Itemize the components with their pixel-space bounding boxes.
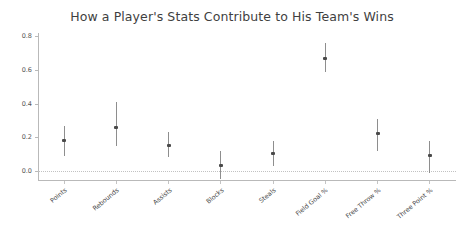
x-tick-mark xyxy=(429,181,430,184)
chart-title: How a Player's Stats Contribute to His T… xyxy=(0,9,464,24)
x-tick-mark xyxy=(64,181,65,184)
y-tick-label: 0.6 xyxy=(8,67,32,74)
x-tick-mark xyxy=(377,181,378,184)
y-tick-mark xyxy=(35,104,38,105)
x-tick-label: Three Point % xyxy=(396,187,434,220)
y-tick-label: 0.2 xyxy=(8,134,32,141)
errorbar-point-marker xyxy=(219,164,223,167)
y-tick-mark xyxy=(35,171,38,172)
x-tick-label: Rebounds xyxy=(92,187,120,212)
y-tick-mark xyxy=(35,70,38,71)
errorbar-point-marker xyxy=(167,144,171,147)
y-axis-spine xyxy=(38,33,39,181)
x-tick-mark xyxy=(325,181,326,184)
y-tick-label: 0.8 xyxy=(8,33,32,40)
x-tick-label: Blocks xyxy=(205,187,225,205)
errorbar-point-marker xyxy=(428,154,432,157)
x-tick-label: Steals xyxy=(258,187,277,204)
y-tick-label: 0.4 xyxy=(8,100,32,107)
y-tick-label: 0.0 xyxy=(8,168,32,175)
errorbar-point-marker xyxy=(271,152,275,155)
x-tick-mark xyxy=(273,181,274,184)
plot-area: 0.00.20.40.60.8 PointsReboundsAssistsBlo… xyxy=(38,33,456,181)
y-tick-mark xyxy=(35,137,38,138)
x-tick-mark xyxy=(168,181,169,184)
zero-reference-line xyxy=(38,171,456,172)
y-tick-mark xyxy=(35,36,38,37)
x-tick-label: Assists xyxy=(152,187,173,206)
errorbar-point-marker xyxy=(323,57,327,60)
chart-figure: How a Player's Stats Contribute to His T… xyxy=(0,0,464,239)
errorbar-point-marker xyxy=(376,132,380,135)
x-tick-mark xyxy=(116,181,117,184)
x-tick-label: Free Throw % xyxy=(344,187,381,220)
errorbar-whisker xyxy=(116,102,117,146)
errorbar-point-marker xyxy=(114,126,118,129)
errorbar-point-marker xyxy=(62,139,66,142)
x-tick-mark xyxy=(220,181,221,184)
x-tick-label: Field Goal % xyxy=(295,187,329,217)
x-tick-label: Points xyxy=(49,187,68,204)
x-axis-spine xyxy=(38,180,456,181)
